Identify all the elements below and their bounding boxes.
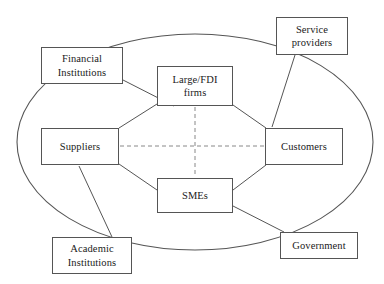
node-suppliers[interactable]: Suppliers [41, 128, 119, 165]
node-service-providers-label: Service providers [292, 23, 333, 50]
node-customers-label: Customers [281, 140, 327, 153]
node-service-providers[interactable]: Service providers [276, 17, 348, 55]
link-large-fdi-firms-customers [233, 105, 266, 128]
link-suppliers-large-fdi-firms [119, 104, 157, 128]
node-smes[interactable]: SMEs [157, 178, 233, 213]
node-government-label: Government [292, 239, 346, 252]
link-government-smes [233, 206, 284, 232]
node-financial-institutions-label: Financial Institutions [58, 52, 106, 79]
link-service-providers-customers [272, 55, 295, 127]
node-financial-institutions[interactable]: Financial Institutions [41, 47, 123, 84]
node-suppliers-label: Suppliers [60, 140, 101, 153]
ecosystem-diagram: Large/FDI firms Suppliers Customers SMEs… [0, 0, 384, 284]
node-large-fdi-firms[interactable]: Large/FDI firms [157, 66, 233, 106]
node-academic-institutions[interactable]: Academic Institutions [52, 237, 132, 274]
link-suppliers-smes [119, 164, 157, 190]
dashed-link-group [120, 107, 264, 177]
node-customers[interactable]: Customers [265, 128, 343, 165]
node-government[interactable]: Government [280, 232, 358, 259]
node-smes-label: SMEs [182, 189, 208, 202]
node-academic-institutions-label: Academic Institutions [68, 242, 116, 269]
link-smes-customers [233, 165, 266, 190]
node-large-fdi-firms-label: Large/FDI firms [172, 73, 217, 100]
